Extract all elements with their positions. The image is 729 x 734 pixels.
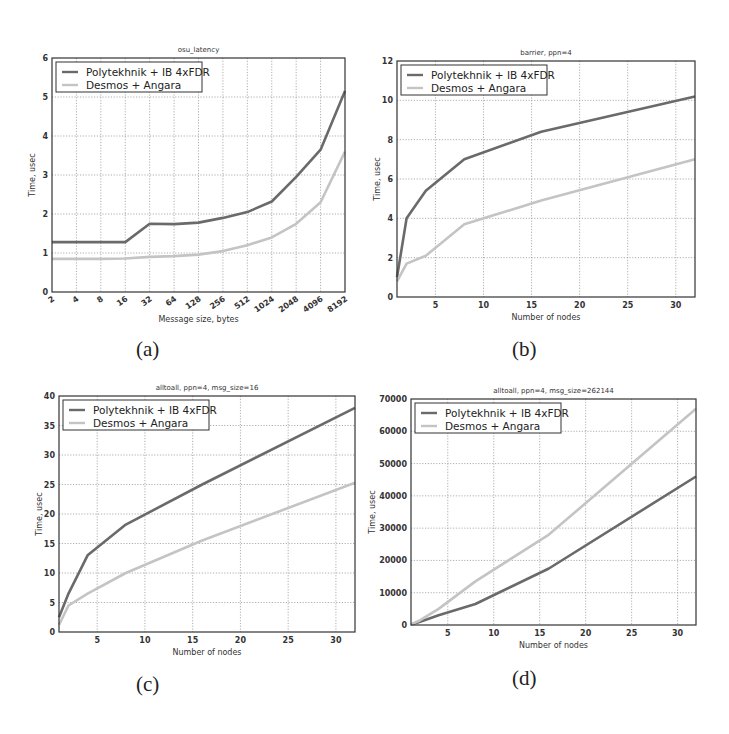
y-tick-label: 40000 (379, 492, 407, 501)
y-tick-label: 60000 (379, 427, 407, 436)
legend-label: Polytekhnik + IB 4xFDR (445, 407, 569, 419)
y-tick-label: 10000 (379, 589, 407, 598)
chart-d-alltoall-262144: 0100002000030000400005000060000700005101… (0, 0, 729, 734)
x-tick-label: 10 (488, 629, 500, 638)
legend-label: Desmos + Angara (445, 420, 540, 432)
y-tick-label: 50000 (379, 460, 407, 469)
x-tick-label: 25 (626, 629, 638, 638)
y-tick-label: 20000 (379, 556, 407, 565)
chart-title: alltoall, ppn=4, msg_size=262144 (493, 387, 614, 395)
x-axis-label: Number of nodes (519, 641, 588, 650)
legend: Polytekhnik + IB 4xFDRDesmos + Angara (415, 403, 569, 433)
x-tick-label: 30 (672, 629, 684, 638)
sublabel-d: (d) (512, 666, 537, 691)
chart-d-svg: 0100002000030000400005000060000700005101… (0, 0, 729, 734)
x-tick-label: 15 (534, 629, 546, 638)
y-axis-label: Time, usec (368, 490, 377, 534)
y-tick-label: 70000 (379, 395, 407, 404)
plot-area: 0100002000030000400005000060000700005101… (368, 387, 696, 650)
x-tick-label: 20 (580, 629, 592, 638)
series-line (411, 409, 696, 625)
y-tick-label: 30000 (379, 524, 407, 533)
series-line (411, 477, 696, 625)
x-tick-label: 5 (445, 629, 451, 638)
y-tick-label: 0 (401, 621, 407, 630)
